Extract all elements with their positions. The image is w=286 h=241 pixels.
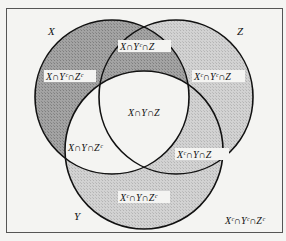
region-z-only-label: Xᶜ∩Yᶜ∩Z — [193, 71, 231, 82]
venn-diagram: X Z Y X∩Yᶜ∩Zᶜ X∩Yᶜ∩Z Xᶜ∩Yᶜ∩Z X∩Y∩Z X∩Y∩Z… — [0, 0, 286, 241]
region-y-z-not-x-label: Xᶜ∩Y∩Z — [176, 149, 212, 160]
region-x-y-not-z-label: X∩Y∩Zᶜ — [67, 142, 104, 153]
region-x-y-z-label: X∩Y∩Z — [127, 107, 160, 118]
region-y-only-label: Xᶜ∩Y∩Zᶜ — [119, 192, 158, 203]
region-x-z-not-y-label: X∩Yᶜ∩Z — [119, 41, 155, 52]
set-x-label: X — [47, 25, 56, 37]
region-outside-label: Xᶜ∩Yᶜ∩Zᶜ — [224, 215, 266, 226]
region-x-only-label: X∩Yᶜ∩Zᶜ — [45, 71, 84, 82]
set-z-label: Z — [237, 25, 244, 37]
